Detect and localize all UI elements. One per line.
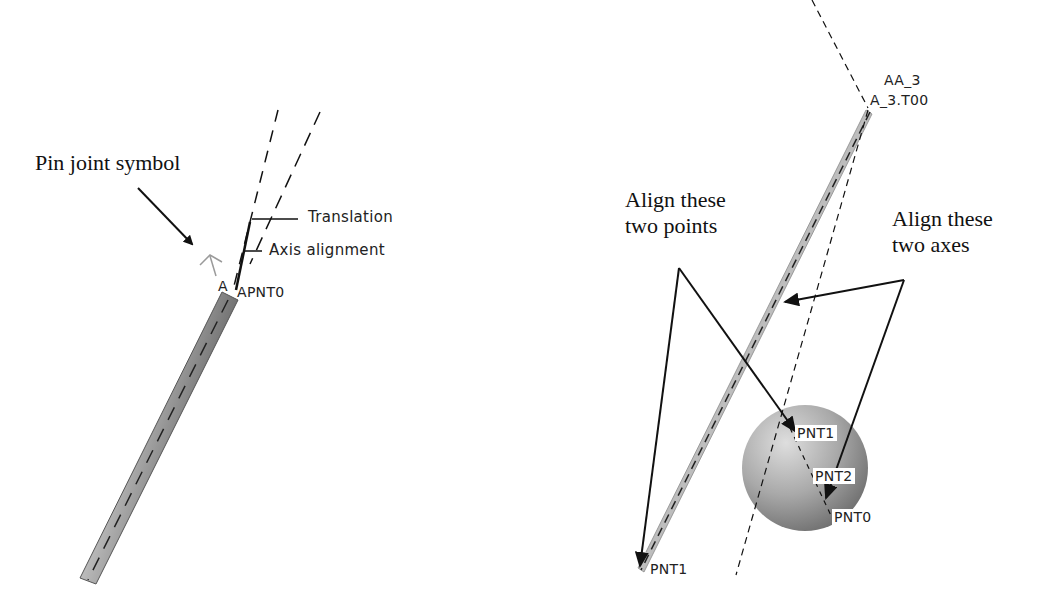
- apnt0-label: APNT0: [237, 284, 284, 300]
- axis-a-label: A: [218, 278, 228, 294]
- pin-rod: [80, 292, 238, 584]
- translation-label: Translation: [308, 208, 393, 226]
- sphere-pnt2-label: PNT2: [813, 468, 855, 484]
- axis-alignment-label: Axis alignment: [269, 241, 385, 259]
- diagram-canvas: Pin joint symbol Translation Axis alignm…: [0, 0, 1064, 615]
- aa3-axis-label: AA_3: [884, 72, 921, 88]
- sphere-pnt0-label: PNT0: [832, 509, 874, 525]
- pin-joint-symbol-icon: [200, 255, 222, 276]
- a3-t00-label: A_3.T00: [870, 92, 928, 108]
- pin-joint-arrow: [138, 188, 192, 244]
- pin-joint-callout: Pin joint symbol: [35, 150, 180, 176]
- axis-dashed-lines: [233, 110, 320, 290]
- sphere-pnt1-label: PNT1: [795, 425, 837, 441]
- rod-pnt1-label: PNT1: [650, 561, 688, 577]
